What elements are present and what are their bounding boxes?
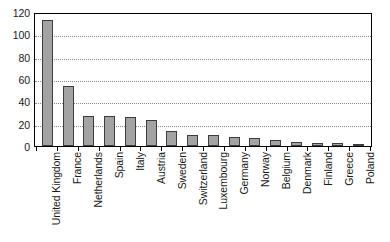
category-slot: Germany — [224, 152, 245, 238]
x-tick — [182, 147, 183, 151]
category-slot: Spain — [99, 152, 120, 238]
bar-slot — [286, 14, 307, 146]
x-tick — [203, 147, 204, 151]
bar[interactable] — [332, 143, 343, 146]
x-tick — [120, 147, 121, 151]
category-slot: Norway — [245, 152, 266, 238]
bar[interactable] — [312, 143, 323, 146]
bar-slot — [141, 14, 162, 146]
bar[interactable] — [353, 144, 364, 146]
bar-slot — [79, 14, 100, 146]
bar[interactable] — [270, 140, 281, 146]
x-tick — [36, 147, 37, 151]
y-tick-label: 100 — [0, 30, 30, 40]
bar[interactable] — [208, 135, 219, 146]
category-slot: Denmark — [287, 152, 308, 238]
bar[interactable] — [83, 116, 94, 146]
x-tick — [370, 147, 371, 151]
category-slot: Belgium — [266, 152, 287, 238]
bar-slot — [328, 14, 349, 146]
x-tick — [287, 147, 288, 151]
x-axis-labels: United KingdomFranceNetherlandsSpainItal… — [34, 152, 372, 238]
plot-area — [34, 13, 372, 147]
x-tick — [328, 147, 329, 151]
y-tick-label: 60 — [0, 75, 30, 85]
bar[interactable] — [42, 20, 53, 146]
x-tick — [57, 147, 58, 151]
category-slot: Austria — [140, 152, 161, 238]
bar-slot — [182, 14, 203, 146]
category-slot: Finland — [307, 152, 328, 238]
bar-slot — [162, 14, 183, 146]
bar[interactable] — [104, 116, 115, 146]
y-tick-label: 80 — [0, 53, 30, 63]
bar[interactable] — [291, 142, 302, 146]
bar[interactable] — [249, 138, 260, 146]
y-tick-label: 40 — [0, 97, 30, 107]
bar-chart: 020406080100120 United KingdomFranceNeth… — [0, 0, 390, 242]
category-slot: United Kingdom — [36, 152, 57, 238]
x-tick — [266, 147, 267, 151]
y-axis: 020406080100120 — [0, 0, 30, 242]
bar-slot — [307, 14, 328, 146]
category-slot: Luxembourg — [203, 152, 224, 238]
category-slot: Sweden — [161, 152, 182, 238]
x-tick — [245, 147, 246, 151]
bar-slot — [265, 14, 286, 146]
bar-slot — [37, 14, 58, 146]
category-slot: Netherlands — [78, 152, 99, 238]
bar[interactable] — [146, 120, 157, 146]
x-tick — [140, 147, 141, 151]
bar-slot — [99, 14, 120, 146]
x-tick — [224, 147, 225, 151]
category-slot: Greece — [328, 152, 349, 238]
x-tick — [99, 147, 100, 151]
category-slot: Italy — [120, 152, 141, 238]
x-tick — [161, 147, 162, 151]
category-label: Poland — [364, 152, 374, 184]
y-tick-label: 20 — [0, 120, 30, 130]
x-tick — [78, 147, 79, 151]
bar[interactable] — [187, 135, 198, 146]
y-tick-label: 120 — [0, 8, 30, 18]
bar[interactable] — [125, 117, 136, 146]
bar-slot — [203, 14, 224, 146]
bars-container — [35, 14, 371, 146]
bar-slot — [224, 14, 245, 146]
bar[interactable] — [229, 137, 240, 146]
x-tick — [349, 147, 350, 151]
category-slot: Switzerland — [182, 152, 203, 238]
bar-slot — [120, 14, 141, 146]
bar[interactable] — [63, 86, 74, 146]
bar-slot — [348, 14, 369, 146]
bar[interactable] — [166, 131, 177, 146]
x-tick — [307, 147, 308, 151]
bar-slot — [245, 14, 266, 146]
bar-slot — [58, 14, 79, 146]
category-slot: Poland — [349, 152, 370, 238]
category-slot: France — [57, 152, 78, 238]
y-tick-label: 0 — [0, 142, 30, 152]
